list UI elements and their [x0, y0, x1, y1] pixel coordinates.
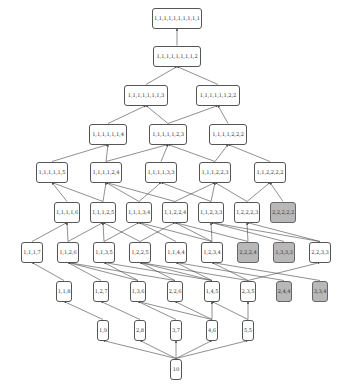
- refinement-edge: [175, 223, 248, 242]
- refinement-edge: [106, 183, 139, 202]
- partition-node: 1,1,2,2,2,2: [254, 162, 286, 183]
- refinement-edge: [140, 263, 212, 281]
- partition-node: 2,2,3,3: [309, 242, 331, 263]
- partition-node: 1,1,3,5: [93, 242, 115, 263]
- partition-node: 2,2,6: [167, 281, 183, 302]
- partition-node: 1,2,2,2,3: [234, 202, 260, 223]
- refinement-edge: [103, 223, 140, 242]
- partition-node: 1,1,2,3,3: [198, 202, 224, 223]
- partition-lattice-diagram: 1,1,1,1,1,1,1,1,1,11,1,1,1,1,1,1,1,21,1,…: [0, 0, 351, 392]
- refinement-edge: [176, 341, 212, 359]
- refinement-edge: [32, 223, 67, 242]
- partition-node: 3,3,4: [312, 281, 328, 302]
- partition-node: 2,3,5: [240, 281, 256, 302]
- refinement-edge: [139, 223, 212, 242]
- partition-node: 1,1,1,1,1,1,1,3: [124, 85, 168, 106]
- refinement-edge: [139, 183, 161, 202]
- partition-node: 1,3,3,3: [273, 242, 295, 263]
- refinement-edge: [101, 302, 140, 320]
- refinement-edge: [161, 145, 168, 162]
- partition-node: 2,8: [134, 320, 146, 341]
- partition-node: 1,2,2,5: [129, 242, 151, 263]
- refinement-edge: [211, 183, 215, 202]
- refinement-edge: [103, 341, 176, 359]
- partition-node: 1,1,1,1,1,2,3: [149, 124, 187, 145]
- partition-node: 1,1,1,1,3,3: [145, 162, 177, 183]
- refinement-edge: [140, 341, 176, 359]
- refinement-edge: [146, 67, 177, 85]
- partition-node: 1,1,1,7: [21, 242, 43, 263]
- refinement-edge: [228, 145, 270, 162]
- refinement-edge: [146, 106, 168, 124]
- refinement-edge: [106, 145, 108, 162]
- refinement-edge: [138, 302, 212, 320]
- refinement-edge: [175, 302, 212, 320]
- refinement-edge: [177, 67, 218, 85]
- refinement-edge: [52, 145, 108, 162]
- refinement-edge: [270, 183, 283, 202]
- refinement-edge: [168, 145, 215, 162]
- partition-node: 1,1,1,2,5: [90, 202, 116, 223]
- partition-node: 1,2,3,4: [201, 242, 223, 263]
- partition-node: 1,1,8: [56, 281, 72, 302]
- refinement-edge: [218, 106, 228, 124]
- refinement-edge: [68, 223, 103, 242]
- partition-node: 1,1,2,2,4: [162, 202, 188, 223]
- refinement-edge: [68, 263, 138, 281]
- refinement-edge: [248, 263, 320, 281]
- partition-node: 1,1,4,4: [165, 242, 187, 263]
- partition-node: 1,1,1,1,1,5: [36, 162, 68, 183]
- partition-node: 1,3,6: [130, 281, 146, 302]
- partition-node: 5,5: [242, 320, 254, 341]
- partition-node: 1,1,1,1,1,1,2,2: [196, 85, 240, 106]
- partition-node: 1,1,1,1,2,4: [90, 162, 122, 183]
- partition-node: 2,4,4: [276, 281, 292, 302]
- refinement-edge: [139, 223, 176, 242]
- refinement-edge: [161, 183, 211, 202]
- refinement-edge: [247, 183, 270, 202]
- refinement-edge: [247, 223, 320, 242]
- partition-node: 2,2,2,2,2: [270, 202, 296, 223]
- partition-node: 1,2,7: [93, 281, 109, 302]
- refinement-edge: [108, 106, 146, 124]
- refinement-edge: [175, 223, 212, 242]
- partition-node: 1,1,1,1,1,1,1,1,2: [153, 46, 201, 67]
- partition-node: 3,7: [170, 320, 182, 341]
- partition-node: 1,1,1,1,6: [54, 202, 80, 223]
- refinement-edge: [67, 223, 68, 242]
- partition-node: 1,9: [97, 320, 109, 341]
- refinement-edge: [175, 183, 215, 202]
- refinement-edge: [138, 302, 176, 320]
- partition-node: 10: [170, 359, 182, 380]
- refinement-edge: [211, 223, 284, 242]
- refinement-edge: [215, 145, 228, 162]
- partition-node: 2,2,2,4: [237, 242, 259, 263]
- refinement-edge: [103, 223, 104, 242]
- partition-node: 1,1,1,1,1,1,4: [89, 124, 127, 145]
- refinement-edge: [212, 302, 248, 320]
- partition-node: 1,1,2,6: [57, 242, 79, 263]
- partition-node: 1,4,5: [204, 281, 220, 302]
- partition-node: 4,6: [206, 320, 218, 341]
- refinement-edge: [106, 145, 168, 162]
- refinement-edge: [176, 341, 248, 359]
- partition-node: 1,1,1,2,2,3: [199, 162, 231, 183]
- refinement-edge: [106, 183, 175, 202]
- refinement-edge: [32, 263, 64, 281]
- refinement-edge: [211, 223, 320, 242]
- partition-node: 1,1,1,3,4: [126, 202, 152, 223]
- partition-node: 1,1,1,1,2,2,2: [209, 124, 247, 145]
- refinement-edge: [103, 183, 106, 202]
- refinement-edge: [215, 183, 247, 202]
- refinement-edge: [168, 106, 218, 124]
- refinement-edge: [64, 302, 103, 320]
- partition-node: 1,1,1,1,1,1,1,1,1,1: [152, 8, 202, 29]
